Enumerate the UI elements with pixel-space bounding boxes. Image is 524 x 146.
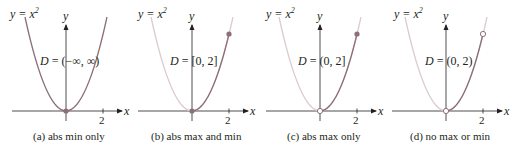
figure-canvas: y = x2 y x 2 D = (−∞, ∞) (a) abs min onl… xyxy=(0,0,524,146)
parabola-highlighted-segment xyxy=(320,34,357,111)
caption: (a) abs min only xyxy=(33,130,105,143)
panel-a xyxy=(12,17,122,121)
caption: (c) abs max only xyxy=(287,130,361,143)
origin-point-filled xyxy=(189,108,194,113)
x-axis-label: x xyxy=(377,104,384,118)
equation-label: y = x2 xyxy=(393,6,423,21)
y-axis-label: y xyxy=(62,9,69,23)
origin-point-open xyxy=(443,108,448,113)
equation-label: y = x2 xyxy=(265,6,295,21)
tick-label-2: 2 xyxy=(353,114,359,126)
y-axis-label: y xyxy=(316,9,323,23)
origin-point-open xyxy=(317,108,322,113)
panel-c xyxy=(266,17,376,121)
y-axis-label: y xyxy=(188,9,195,23)
parabola-highlighted-segment xyxy=(192,34,229,111)
parabola-highlighted-segment xyxy=(446,34,483,111)
tick-label-2: 2 xyxy=(225,114,231,126)
domain-label: D = (0, 2] xyxy=(297,54,345,68)
x-axis-label: x xyxy=(123,104,130,118)
endpoint-open xyxy=(480,31,485,36)
domain-label: D = [0, 2] xyxy=(169,54,217,68)
equation-label: y = x2 xyxy=(9,6,39,21)
origin-point-filled xyxy=(63,108,68,113)
tick-label-2: 2 xyxy=(479,114,485,126)
panel-b xyxy=(138,17,248,121)
tick-label-2: 2 xyxy=(99,114,105,126)
endpoint-filled xyxy=(226,31,231,36)
panel-d xyxy=(392,17,502,121)
caption: (d) no max or min xyxy=(410,130,491,143)
caption: (b) abs max and min xyxy=(151,130,242,143)
domain-label: D = (0, 2) xyxy=(424,54,472,68)
domain-label: D = (−∞, ∞) xyxy=(39,54,99,68)
equation-label: y = x2 xyxy=(137,6,167,21)
x-axis-label: x xyxy=(503,104,510,118)
endpoint-filled xyxy=(354,31,359,36)
x-axis-label: x xyxy=(249,104,256,118)
y-axis-label: y xyxy=(442,9,449,23)
